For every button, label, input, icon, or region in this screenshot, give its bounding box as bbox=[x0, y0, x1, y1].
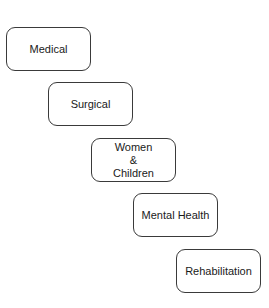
node-label: Women & Children bbox=[113, 141, 154, 180]
node-mental-health: Mental Health bbox=[133, 193, 218, 237]
node-label: Rehabilitation bbox=[185, 265, 252, 278]
node-rehabilitation: Rehabilitation bbox=[176, 249, 261, 293]
node-women-children: Women & Children bbox=[91, 138, 176, 182]
node-label: Surgical bbox=[71, 98, 111, 111]
node-surgical: Surgical bbox=[48, 82, 133, 126]
node-label: Medical bbox=[30, 43, 68, 56]
node-label: Mental Health bbox=[142, 209, 210, 222]
node-medical: Medical bbox=[6, 27, 91, 71]
